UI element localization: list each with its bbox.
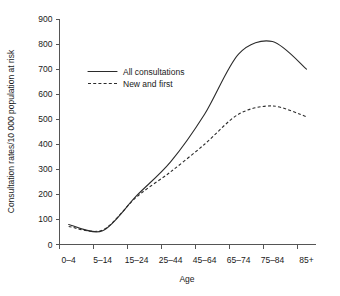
line-chart: 0100200300400500600700800900 Consultatio… [0,0,340,296]
plot-series-group [69,41,307,232]
x-tick-label: 15–24 [125,255,149,265]
x-tick-labels: 0–45–1415–2425–4445–6465–7475–8485+ [62,255,314,265]
x-tick-label: 75–84 [261,255,285,265]
y-tick-label: 600 [38,89,52,99]
series-line-all-consultations [69,41,307,232]
legend: All consultations New and first [88,67,184,89]
x-tick-marks [60,245,298,249]
series-line-new-and-first [69,106,307,232]
chart-container: 0100200300400500600700800900 Consultatio… [0,0,340,296]
y-tick-label: 900 [38,14,52,24]
x-tick-label: 0–4 [62,255,76,265]
y-tick-label: 200 [38,189,52,199]
legend-label-new-and-first: New and first [123,79,173,89]
y-tick-label: 800 [38,39,52,49]
x-tick-label: 25–44 [159,255,183,265]
y-tick-marks [56,19,60,245]
legend-label-all-consultations: All consultations [123,67,184,77]
y-tick-label: 700 [38,64,52,74]
y-tick-label: 300 [38,164,52,174]
x-tick-label: 85+ [299,255,313,265]
y-tick-label: 400 [38,139,52,149]
y-tick-labels: 0100200300400500600700800900 [38,14,52,250]
x-tick-label: 65–74 [227,255,251,265]
y-tick-label: 100 [38,214,52,224]
x-axis-group: 0–45–1415–2425–4445–6465–7475–8485+ Age [60,245,317,285]
x-axis-title: Age [179,274,194,284]
y-axis-group: 0100200300400500600700800900 Consultatio… [6,14,60,250]
y-tick-label: 500 [38,114,52,124]
x-tick-label: 45–64 [193,255,217,265]
y-tick-label: 0 [48,240,53,250]
x-tick-label: 5–14 [93,255,112,265]
y-axis-title: Consultation rates/10 000 population at … [6,49,16,213]
